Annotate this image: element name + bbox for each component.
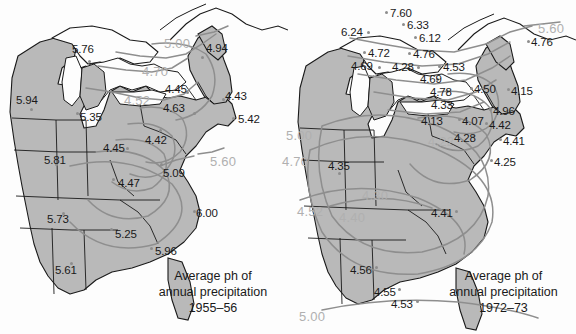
station-dot (159, 129, 162, 132)
contour-ph-label: 4.52 (297, 205, 323, 218)
station-dot (201, 56, 204, 59)
station-ph-value: 4.13 (421, 116, 443, 128)
station-ph-value: 4.41 (503, 136, 525, 148)
station-ph-value: 4.78 (430, 87, 452, 99)
contour-ph-label: 4.22 (428, 135, 454, 148)
station-ph-value: 5.96 (155, 246, 177, 258)
station-dot (76, 112, 79, 115)
station-dot (126, 147, 129, 150)
station-ph-value: 5.35 (80, 112, 102, 124)
station-ph-value: 4.25 (494, 157, 516, 169)
station-ph-value: 6.00 (196, 208, 218, 220)
station-ph-value: 4.50 (474, 84, 496, 96)
map-panel-1955-56[interactable]: 5.764.945.945.354.454.634.435.424.424.45… (0, 0, 288, 334)
label-layer-1972-73: 7.606.336.246.124.724.764.694.284.534.76… (288, 0, 576, 334)
station-ph-value: 4.53 (443, 62, 465, 74)
station-dot (375, 266, 378, 269)
contour-ph-label: 4.30 (362, 189, 388, 202)
station-ph-value: 6.24 (341, 27, 363, 39)
caption-line: 1972–73 (436, 300, 571, 316)
station-ph-value: 4.42 (489, 120, 511, 132)
station-ph-value: 4.42 (145, 135, 167, 147)
contour-ph-label: 5.00 (299, 310, 325, 323)
station-ph-value: 5.76 (72, 44, 94, 56)
station-dot (160, 163, 163, 166)
station-dot (232, 117, 235, 120)
station-dot (398, 288, 401, 291)
station-ph-value: 4.45 (103, 143, 125, 155)
contour-ph-label: 5.00 (286, 129, 312, 142)
caption-line: 1955–56 (148, 300, 278, 316)
map-caption-1955-56: Average ph ofannual precipitation1955–56 (148, 268, 278, 316)
station-ph-value: 5.42 (238, 114, 260, 126)
station-ph-value: 4.56 (350, 265, 372, 277)
caption-line: annual precipitation (436, 284, 571, 300)
contour-ph-label: 4.70 (142, 65, 168, 78)
caption-line: Average ph of (148, 268, 278, 284)
station-ph-value: 4.33 (431, 100, 453, 112)
station-ph-value: 4.43 (225, 91, 247, 103)
station-ph-value: 4.45 (165, 84, 187, 96)
station-dot (490, 159, 493, 162)
station-ph-value: 7.60 (390, 8, 412, 20)
station-dot (367, 31, 370, 34)
station-dot (193, 112, 196, 115)
station-ph-value: 4.55 (374, 287, 396, 299)
contour-ph-label: 5.60 (210, 155, 236, 168)
caption-line: annual precipitation (148, 284, 278, 300)
station-ph-value: 5.09 (163, 168, 185, 180)
station-dot (402, 23, 405, 26)
station-ph-value: 4.35 (328, 161, 350, 173)
station-dot (150, 247, 153, 250)
station-dot (112, 178, 115, 181)
station-dot (30, 108, 33, 111)
station-ph-value: 4.94 (206, 43, 228, 55)
station-dot (507, 88, 510, 91)
station-ph-value: 4.63 (163, 103, 185, 115)
station-dot (408, 52, 411, 55)
caption-line: Average ph of (436, 268, 571, 284)
map-caption-1972-73: Average ph ofannual precipitation1972–73 (436, 268, 571, 316)
ph-precipitation-figure: 5.764.945.945.354.454.634.435.424.424.45… (0, 0, 576, 334)
station-ph-value: 6.33 (407, 20, 429, 32)
station-ph-value: 5.25 (115, 229, 137, 241)
station-ph-value: 6.12 (419, 33, 441, 45)
station-dot (527, 40, 530, 43)
station-ph-value: 4.76 (413, 49, 435, 61)
station-dot (378, 66, 381, 69)
station-ph-value: 4.07 (462, 116, 484, 128)
station-ph-value: 4.69 (351, 61, 373, 73)
station-dot (417, 66, 420, 69)
station-dot (416, 300, 419, 303)
station-ph-value: 4.76 (531, 37, 553, 49)
station-dot (110, 228, 113, 231)
station-ph-value: 4.47 (118, 178, 140, 190)
station-dot (499, 138, 502, 141)
station-ph-value: 4.96 (493, 106, 515, 118)
station-ph-value: 5.94 (16, 95, 38, 107)
station-ph-value: 4.53 (391, 299, 413, 311)
label-layer-1955-56: 5.764.945.945.354.454.634.435.424.424.45… (0, 0, 288, 334)
contour-ph-label: 4.70 (282, 155, 308, 168)
station-dot (455, 210, 458, 213)
station-ph-value: 5.73 (47, 214, 69, 226)
station-ph-value: 4.15 (511, 86, 533, 98)
station-ph-value: 4.28 (454, 133, 476, 145)
station-ph-value: 5.61 (55, 265, 77, 277)
contour-ph-label: 4.52 (124, 94, 150, 107)
station-dot (88, 60, 91, 63)
station-dot (458, 118, 461, 121)
station-dot (385, 11, 388, 14)
station-ph-value: 4.72 (368, 48, 390, 60)
contour-ph-label: 5.00 (164, 37, 190, 50)
station-dot (470, 87, 473, 90)
map-panel-1972-73[interactable]: 7.606.336.246.124.724.764.694.284.534.76… (288, 0, 576, 334)
station-dot (485, 122, 488, 125)
station-ph-value: 4.41 (431, 208, 453, 220)
station-ph-value: 4.69 (420, 74, 442, 86)
station-dot (438, 65, 441, 68)
contour-ph-label: 5.60 (538, 22, 564, 35)
contour-ph-label: 4.40 (339, 211, 365, 224)
station-dot (489, 108, 492, 111)
station-ph-value: 5.81 (44, 155, 66, 167)
